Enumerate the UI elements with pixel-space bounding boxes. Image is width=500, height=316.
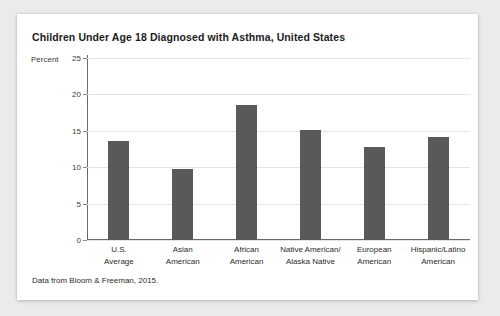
x-axis-labels: U.S.AverageAsianAmericanAfricanAmericanN…: [87, 244, 470, 267]
bar-slot: [215, 58, 279, 240]
x-axis-label-line: American: [151, 256, 215, 268]
y-tick-label: 25: [72, 54, 81, 63]
bar-slot: [151, 58, 215, 240]
source-note: Data from Bloom & Freeman, 2015.: [32, 276, 158, 285]
x-axis-label: AsianAmerican: [151, 244, 215, 267]
x-axis-label: AfricanAmerican: [215, 244, 279, 267]
plot-area: 0510152025: [87, 58, 470, 240]
x-axis-label: U.S.Average: [87, 244, 151, 267]
bar-slot: [406, 58, 470, 240]
chart-card: Children Under Age 18 Diagnosed with Ast…: [17, 14, 478, 300]
x-axis-label-line: Alaska Native: [278, 256, 342, 268]
x-axis-label-line: Average: [87, 256, 151, 268]
x-axis-label-line: U.S.: [87, 244, 151, 256]
chart-title: Children Under Age 18 Diagnosed with Ast…: [32, 31, 345, 43]
y-tick-label: 5: [77, 199, 81, 208]
x-axis-label: EuropeanAmerican: [342, 244, 406, 267]
page-background: Children Under Age 18 Diagnosed with Ast…: [0, 0, 500, 316]
y-tick-label: 15: [72, 126, 81, 135]
bar: [172, 169, 193, 240]
x-axis-label-line: African: [215, 244, 279, 256]
x-axis-label: Native American/Alaska Native: [278, 244, 342, 267]
bar: [236, 105, 257, 240]
gridline: [87, 240, 470, 241]
x-axis-label: Hispanic/LatinoAmerican: [406, 244, 470, 267]
bar: [364, 147, 385, 240]
y-tick-label: 20: [72, 90, 81, 99]
bar: [300, 130, 321, 240]
x-axis-label-line: Native American/: [278, 244, 342, 256]
x-axis-label-line: European: [342, 244, 406, 256]
y-tick-label: 0: [77, 236, 81, 245]
bar: [428, 137, 449, 240]
bar-series: [87, 58, 470, 240]
x-axis-label-line: Hispanic/Latino: [406, 244, 470, 256]
bar-slot: [87, 58, 151, 240]
bar-slot: [342, 58, 406, 240]
y-tick-mark: [83, 240, 87, 241]
x-axis-label-line: Asian: [151, 244, 215, 256]
x-axis-label-line: American: [342, 256, 406, 268]
y-tick-label: 10: [72, 163, 81, 172]
y-axis-title: Percent: [31, 55, 59, 64]
x-axis-label-line: American: [406, 256, 470, 268]
x-axis-label-line: American: [215, 256, 279, 268]
bar-slot: [278, 58, 342, 240]
bar: [108, 141, 129, 240]
